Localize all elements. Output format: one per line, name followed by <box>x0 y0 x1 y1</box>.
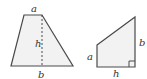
right-trapezoid-label-a: a <box>87 51 93 62</box>
right-trapezoid-outline <box>97 17 135 67</box>
right-trapezoid-label-h: h <box>113 68 119 79</box>
trapezoid-label-a: a <box>31 3 37 14</box>
trapezoid-shape <box>11 15 73 66</box>
right-trapezoid-label-b: b <box>139 37 145 48</box>
trapezoid-diagram: a h b a b h <box>0 0 147 79</box>
trapezoid-label-b: b <box>38 69 44 79</box>
right-trapezoid-shape <box>97 17 135 67</box>
trapezoid-label-h: h <box>35 38 41 49</box>
